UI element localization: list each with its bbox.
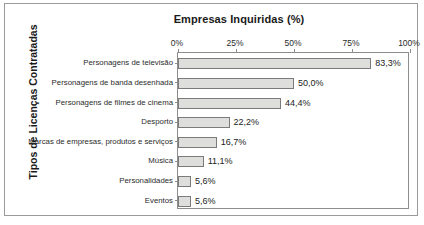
x-tick-label: 25%: [226, 38, 243, 48]
category-label: Personagens de televisão: [3, 57, 173, 68]
y-tick-mark: [175, 63, 178, 64]
bar-value-label: 22,2%: [234, 117, 260, 128]
x-axis-tick-labels: 0%25%50%75%100%: [5, 38, 419, 51]
chart-title: Empresas Inquiridas (%): [65, 13, 413, 25]
y-tick-mark: [175, 82, 178, 83]
y-tick-mark: [175, 141, 178, 142]
category-label: Personagens de banda desenhada: [3, 77, 173, 88]
category-label: Personalidades: [3, 175, 173, 186]
x-tick-mark: [178, 49, 179, 53]
y-tick-mark: [175, 161, 178, 162]
y-tick-mark: [175, 181, 178, 182]
plot-area: 83,3%50,0%44,4%22,2%16,7%11,1%5,6%5,6%: [177, 52, 409, 209]
bar-value-label: 5,6%: [195, 176, 216, 187]
bar: [178, 176, 191, 187]
x-tick-label: 0%: [171, 38, 183, 48]
x-tick-label: 75%: [342, 38, 359, 48]
chart-figure: Empresas Inquiridas (%) Tipos de Licença…: [4, 3, 418, 216]
y-tick-mark: [175, 122, 178, 123]
bar-value-label: 11,1%: [208, 156, 233, 167]
category-label: Personagens de filmes de cinema: [3, 97, 173, 108]
x-tick-mark: [236, 49, 237, 53]
bar: [178, 58, 371, 69]
bar-value-label: 44,4%: [285, 98, 311, 109]
y-tick-mark: [175, 200, 178, 201]
bar: [178, 196, 191, 207]
bar: [178, 98, 281, 109]
x-tick-mark: [352, 49, 353, 53]
category-label: Eventos: [3, 195, 173, 206]
category-label: Marcas de empresas, produtos e serviços: [3, 136, 173, 147]
bar-value-label: 5,6%: [195, 196, 216, 207]
x-tick-mark: [294, 49, 295, 53]
bar-value-label: 83,3%: [375, 58, 401, 69]
x-tick-label: 50%: [284, 38, 301, 48]
y-tick-mark: [175, 102, 178, 103]
x-tick-mark: [410, 49, 411, 53]
category-label: Música: [3, 155, 173, 166]
x-tick-label: 100%: [398, 38, 420, 48]
category-label-column: Personagens de televisãoPersonagens de b…: [5, 52, 173, 209]
bar: [178, 156, 204, 167]
bar-value-label: 50,0%: [298, 78, 324, 89]
bar-value-label: 16,7%: [221, 137, 247, 148]
bar: [178, 117, 230, 128]
bar: [178, 78, 294, 89]
bar: [178, 137, 217, 148]
category-label: Desporto: [3, 116, 173, 127]
